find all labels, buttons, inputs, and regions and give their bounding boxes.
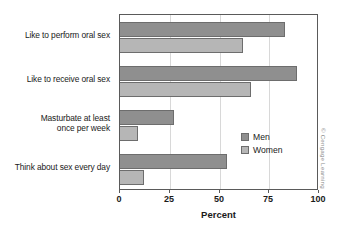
legend-item-men: Men xyxy=(241,131,301,143)
legend-label-men: Men xyxy=(253,132,270,142)
category-label-line: Like to receive oral sex xyxy=(0,75,110,85)
x-tick-100 xyxy=(318,190,319,193)
bar-men-0 xyxy=(120,22,285,37)
legend-swatch-men xyxy=(241,133,249,141)
category-label-2: Masturbate at leastonce per week xyxy=(0,114,110,134)
x-tick-label-100: 100 xyxy=(310,194,325,204)
bar-women-3 xyxy=(120,170,144,185)
legend-swatch-women xyxy=(241,146,249,154)
x-tick-label-75: 75 xyxy=(263,194,273,204)
bar-men-1 xyxy=(120,66,297,81)
gridline-75 xyxy=(269,15,270,189)
x-tick-0 xyxy=(119,190,120,193)
bar-women-0 xyxy=(120,38,243,53)
plot-area xyxy=(119,14,318,190)
category-axis-labels: Like to perform oral sexLike to receive … xyxy=(0,14,114,190)
legend-item-women: Women xyxy=(241,144,301,156)
attribution-text: © Cengage Learning xyxy=(320,128,327,189)
category-label-line: Like to perform oral sex xyxy=(0,31,110,41)
x-tick-25 xyxy=(169,190,170,193)
bar-chart-figure: Like to perform oral sexLike to receive … xyxy=(0,0,351,240)
category-label-3: Think about sex every day xyxy=(0,163,110,173)
x-tick-label-25: 25 xyxy=(164,194,174,204)
legend: MenWomen xyxy=(241,131,301,157)
bar-women-2 xyxy=(120,126,138,141)
bar-women-1 xyxy=(120,82,251,97)
x-axis: 0255075100 xyxy=(119,190,318,210)
category-label-line: once per week xyxy=(0,124,110,134)
category-label-line: Think about sex every day xyxy=(0,163,110,173)
x-axis-title: Percent xyxy=(119,209,318,220)
category-label-1: Like to receive oral sex xyxy=(0,75,110,85)
x-tick-label-50: 50 xyxy=(214,194,224,204)
bar-men-2 xyxy=(120,110,174,125)
x-tick-label-0: 0 xyxy=(116,194,121,204)
bar-men-3 xyxy=(120,154,227,169)
category-label-0: Like to perform oral sex xyxy=(0,31,110,41)
legend-label-women: Women xyxy=(253,145,282,155)
x-tick-75 xyxy=(268,190,269,193)
x-tick-50 xyxy=(219,190,220,193)
